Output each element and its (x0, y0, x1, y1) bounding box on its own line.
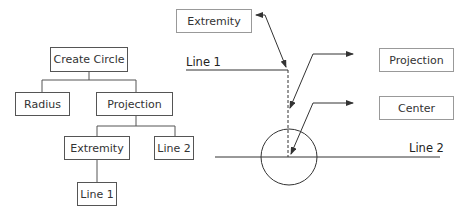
tree-node-projection: Projection (96, 92, 173, 116)
tree-node-label: Projection (107, 98, 161, 111)
line-2-label: Line 2 (409, 141, 444, 155)
tree-node-radius: Radius (15, 92, 70, 116)
callout-extremity: Extremity (176, 9, 252, 33)
line-1-label: Line 1 (186, 55, 221, 69)
tree-node-label: Create Circle (54, 53, 125, 66)
callout-label: Projection (389, 54, 443, 67)
tree-node-line-2: Line 2 (154, 136, 194, 160)
tree-node-extremity: Extremity (64, 136, 130, 160)
tree-node-label: Line 2 (157, 142, 190, 155)
callout-label: Extremity (187, 15, 240, 28)
callout-label: Center (398, 102, 435, 115)
tree-node-line-1: Line 1 (77, 182, 117, 206)
tree-node-label: Line 1 (80, 188, 113, 201)
tree-node-label: Extremity (70, 142, 123, 155)
callout-center: Center (379, 96, 454, 120)
callout-projection: Projection (379, 48, 454, 72)
tree-node-create-circle: Create Circle (50, 47, 128, 72)
tree-node-label: Radius (24, 98, 61, 111)
